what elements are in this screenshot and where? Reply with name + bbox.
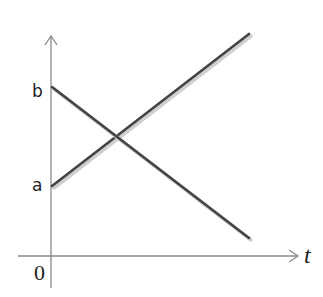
x-axis-label: t — [304, 242, 312, 268]
origin-label: 0 — [34, 260, 45, 285]
line-diagram: b a 0 t — [0, 0, 323, 297]
x-axis — [18, 250, 298, 262]
y-axis — [45, 36, 57, 288]
label-b: b — [32, 81, 43, 101]
label-a: a — [32, 175, 42, 195]
